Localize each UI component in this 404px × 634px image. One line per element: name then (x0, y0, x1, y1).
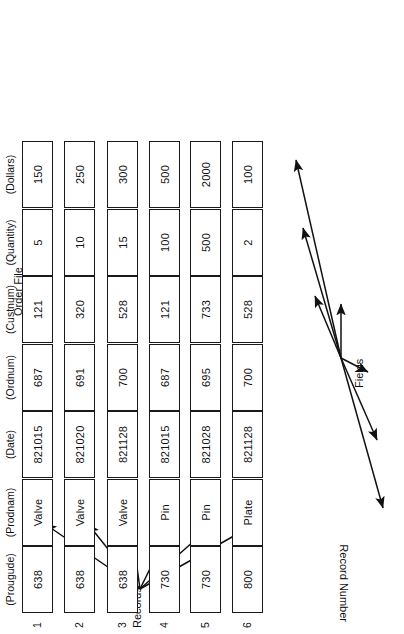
table-cell: 2000 (190, 141, 221, 208)
table-cell: 821020 (64, 411, 95, 478)
table-cell: 100 (232, 141, 263, 208)
field-code-label: (Quantity) (5, 209, 17, 276)
fields-arrows (296, 160, 383, 508)
record-number-label: 3 (116, 618, 128, 632)
table-cell: 528 (107, 276, 138, 343)
field-code-label: (Prodnam) (5, 479, 17, 546)
table-cell: 150 (22, 141, 53, 208)
record-number-label: 4 (158, 618, 170, 632)
table-cell: 821028 (190, 411, 221, 478)
record-number-label: 6 (241, 618, 253, 632)
table-cell: 730 (149, 546, 180, 613)
table-cell: 500 (190, 209, 221, 276)
table-cell: 687 (149, 344, 180, 411)
figure-page: Records Fields Order File Record Number … (0, 0, 404, 634)
table-cell: 500 (149, 141, 180, 208)
table-cell: 800 (232, 546, 263, 613)
table-cell: Valve (107, 479, 138, 546)
table-cell: 638 (107, 546, 138, 613)
table-cell: 2 (232, 209, 263, 276)
record-number-label: 5 (199, 618, 211, 632)
table-cell: 687 (22, 344, 53, 411)
diagram-canvas: Records Fields Order File Record Number … (0, 0, 404, 634)
table-cell: 15 (107, 209, 138, 276)
table-cell: 821015 (22, 411, 53, 478)
table-cell: 700 (232, 344, 263, 411)
table-cell: Plate (232, 479, 263, 546)
record-number-axis-label: Record Number (338, 544, 350, 622)
table-cell: 700 (107, 344, 138, 411)
table-cell: 121 (149, 276, 180, 343)
record-number-label: 2 (73, 618, 85, 632)
table-cell: 300 (107, 141, 138, 208)
table-cell: 730 (190, 546, 221, 613)
table-cell: 733 (190, 276, 221, 343)
table-cell: 821128 (232, 411, 263, 478)
table-cell: 320 (64, 276, 95, 343)
table-cell: Pin (149, 479, 180, 546)
table-cell: 528 (232, 276, 263, 343)
field-code-label: (Date) (5, 411, 17, 478)
table-cell: 691 (64, 344, 95, 411)
table-cell: Valve (64, 479, 95, 546)
table-cell: Pin (190, 479, 221, 546)
table-cell: 250 (64, 141, 95, 208)
table-cell: 821128 (107, 411, 138, 478)
table-cell: 5 (22, 209, 53, 276)
table-cell: 10 (64, 209, 95, 276)
field-code-label: (Prougude) (5, 546, 17, 613)
field-code-label: (Dollars) (5, 141, 17, 208)
table-cell: 821015 (149, 411, 180, 478)
field-code-label: (Ordnum) (5, 344, 17, 411)
record-number-label: 1 (31, 618, 43, 632)
table-cell: 638 (22, 546, 53, 613)
table-cell: 100 (149, 209, 180, 276)
table-cell: 695 (190, 344, 221, 411)
table-cell: Valve (22, 479, 53, 546)
table-cell: 638 (64, 546, 95, 613)
field-code-label: (Custnum) (5, 276, 17, 343)
table-cell: 121 (22, 276, 53, 343)
fields-label: Fields (353, 359, 365, 388)
